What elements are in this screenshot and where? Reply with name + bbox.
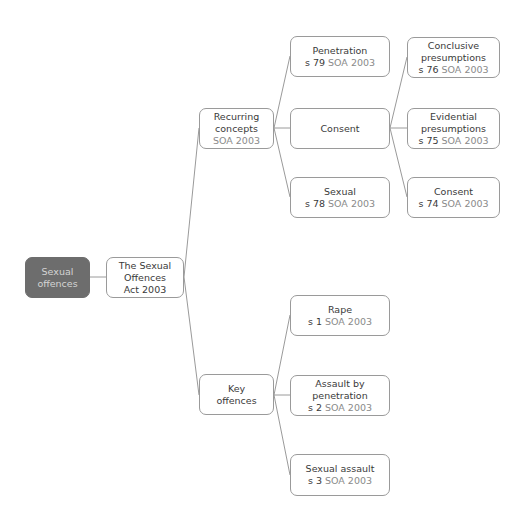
act-name: SOA 2003 xyxy=(442,198,489,209)
node-title: Sexual xyxy=(324,186,356,198)
section-number: s 1 xyxy=(308,316,322,327)
statute-reference: s 79 SOA 2003 xyxy=(305,57,375,69)
node-title: Penetration xyxy=(313,45,368,57)
section-number: s 75 xyxy=(418,135,438,146)
act-reference: SOA 2003 xyxy=(213,135,260,147)
mind-map-diagram: Sexual offences The Sexual Offences Act … xyxy=(0,0,528,518)
act-name: SOA 2003 xyxy=(325,316,372,327)
section-number: s 76 xyxy=(418,64,438,75)
node-title: Sexual assault xyxy=(306,463,375,475)
node-label-line: offences xyxy=(216,395,256,407)
node-consent-concept: Consent xyxy=(290,108,390,149)
node-label-line: penetration xyxy=(312,390,367,402)
statute-reference: s 2 SOA 2003 xyxy=(308,402,372,414)
node-label-line: The Sexual xyxy=(119,260,172,272)
node-sexual-assault: Sexual assault s 3 SOA 2003 xyxy=(290,454,390,496)
node-title: Consent xyxy=(434,186,473,198)
node-label-line: Conclusive xyxy=(428,40,479,52)
node-sexual-offences: Sexual offences xyxy=(25,257,90,298)
statute-reference: s 76 SOA 2003 xyxy=(418,64,488,76)
node-title: Rape xyxy=(328,304,352,316)
act-name: SOA 2003 xyxy=(213,135,260,146)
node-label-line: offences xyxy=(37,278,77,290)
act-name: SOA 2003 xyxy=(328,57,375,68)
node-sexual: Sexual s 78 SOA 2003 xyxy=(290,177,390,218)
node-sexual-offences-act-2003: The Sexual Offences Act 2003 xyxy=(106,257,184,298)
act-name: SOA 2003 xyxy=(325,402,372,413)
node-label-line: Evidential xyxy=(430,111,477,123)
node-label-line: Sexual xyxy=(42,266,74,278)
act-name: SOA 2003 xyxy=(328,198,375,209)
act-name: SOA 2003 xyxy=(442,64,489,75)
section-number: s 74 xyxy=(418,198,438,209)
statute-reference: s 78 SOA 2003 xyxy=(305,198,375,210)
section-number: s 78 xyxy=(305,198,325,209)
node-label-line: Assault by xyxy=(315,378,364,390)
section-number: s 79 xyxy=(305,57,325,68)
node-label-line: Offences xyxy=(124,272,166,284)
node-label-line: Key xyxy=(228,383,245,395)
act-name: SOA 2003 xyxy=(325,475,372,486)
statute-reference: s 75 SOA 2003 xyxy=(418,135,488,147)
node-conclusive-presumptions: Conclusive presumptions s 76 SOA 2003 xyxy=(407,37,500,78)
node-assault-by-penetration: Assault by penetration s 2 SOA 2003 xyxy=(290,375,390,416)
node-consent-definition: Consent s 74 SOA 2003 xyxy=(407,177,500,218)
node-label-line: Act 2003 xyxy=(124,284,166,296)
node-recurring-concepts: Recurring concepts SOA 2003 xyxy=(199,108,274,149)
node-label-line: Recurring xyxy=(214,111,260,123)
node-rape: Rape s 1 SOA 2003 xyxy=(290,295,390,336)
node-title: Consent xyxy=(320,123,359,135)
section-number: s 3 xyxy=(308,475,322,486)
node-evidential-presumptions: Evidential presumptions s 75 SOA 2003 xyxy=(407,108,500,149)
section-number: s 2 xyxy=(308,402,322,413)
statute-reference: s 3 SOA 2003 xyxy=(308,475,372,487)
act-name: SOA 2003 xyxy=(442,135,489,146)
statute-reference: s 74 SOA 2003 xyxy=(418,198,488,210)
node-label-line: presumptions xyxy=(421,123,486,135)
node-penetration: Penetration s 79 SOA 2003 xyxy=(290,36,390,77)
node-key-offences: Key offences xyxy=(199,374,274,415)
node-label-line: presumptions xyxy=(421,52,486,64)
node-label-line: concepts xyxy=(215,123,258,135)
statute-reference: s 1 SOA 2003 xyxy=(308,316,372,328)
